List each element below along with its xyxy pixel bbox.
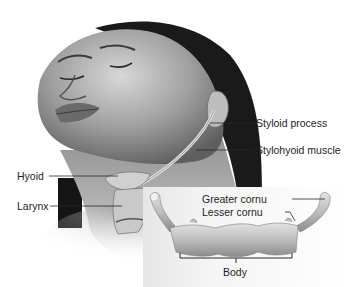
label-hyoid: Hyoid — [17, 170, 44, 182]
larynx — [113, 188, 146, 234]
label-stylohyoid-muscle: Stylohyoid muscle — [256, 144, 341, 156]
hyoid-anatomy-figure: Styloid process Stylohyoid muscle Hyoid … — [0, 0, 350, 287]
label-greater-cornu: Greater cornu — [202, 193, 267, 205]
label-body: Body — [223, 266, 247, 278]
label-styloid-process: Styloid process — [256, 117, 327, 129]
label-larynx: Larynx — [17, 200, 49, 212]
label-lesser-cornu: Lesser cornu — [202, 206, 263, 218]
